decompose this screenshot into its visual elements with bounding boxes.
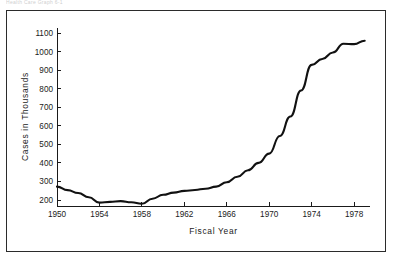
x-axis-tick-labels: 19501954195819621966197019741978 (48, 210, 364, 219)
line-chart: 20030040050060070080090010001100 1950195… (0, 0, 393, 258)
x-tick-label-1974: 1974 (303, 210, 322, 219)
y-tick-label-1100: 1100 (35, 29, 53, 38)
x-tick-label-1958: 1958 (133, 210, 152, 219)
figure-page: Health Care Graph 6-1 200300400500600700… (0, 0, 393, 258)
x-axis-title: Fiscal Year (189, 226, 238, 236)
y-tick-label-1000: 1000 (35, 48, 54, 57)
y-tick-label-600: 600 (39, 122, 53, 131)
x-tick-label-1966: 1966 (218, 210, 237, 219)
x-tick-label-1962: 1962 (175, 210, 194, 219)
y-axis-tick-labels: 20030040050060070080090010001100 (35, 29, 54, 205)
y-tick-label-300: 300 (39, 177, 53, 186)
y-tick-label-800: 800 (39, 85, 53, 94)
chart-svg: 20030040050060070080090010001100 1950195… (0, 0, 393, 258)
x-tick-label-1950: 1950 (48, 210, 67, 219)
y-tick-label-900: 900 (39, 66, 53, 75)
y-tick-label-700: 700 (39, 103, 53, 112)
data-series-line (57, 41, 365, 204)
x-tick-label-1954: 1954 (90, 210, 109, 219)
y-axis-title: Cases in Thousands (20, 72, 30, 161)
y-tick-label-200: 200 (39, 196, 53, 205)
y-tick-label-500: 500 (39, 140, 53, 149)
x-tick-label-1970: 1970 (260, 210, 279, 219)
x-tick-label-1978: 1978 (345, 210, 364, 219)
y-tick-label-400: 400 (39, 159, 53, 168)
y-axis-ticks (57, 33, 61, 200)
